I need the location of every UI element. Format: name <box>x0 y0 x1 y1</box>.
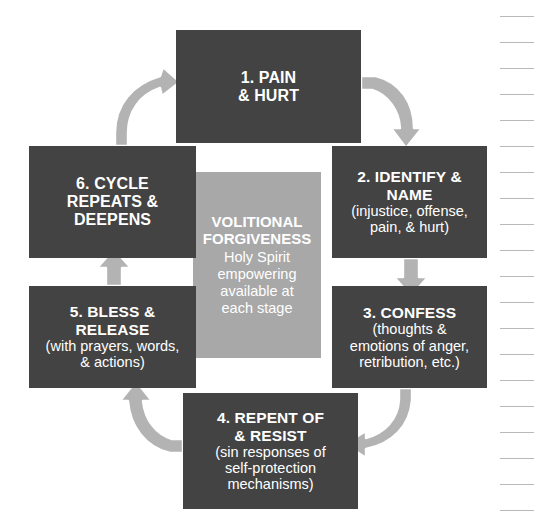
stage-3-title: 3. CONFESS <box>363 304 456 321</box>
arrow-1-to-2 <box>361 76 422 148</box>
rule-line <box>500 432 534 433</box>
rule-line <box>500 198 534 199</box>
stage-4-subtext: (sin responses of self-protection mechan… <box>215 444 325 493</box>
center-panel: VOLITIONAL FORGIVENESS Holy Spirit empow… <box>193 172 321 358</box>
stage-6-title: 6. CYCLE REPEATS & DEEPENS <box>67 175 158 229</box>
arrow-4-to-5 <box>120 381 183 453</box>
stage-box-4-repent-and-resist[interactable]: 4. REPENT OF & RESIST (sin responses of … <box>183 393 358 509</box>
rule-line <box>500 510 534 511</box>
diagram-canvas: VOLITIONAL FORGIVENESS Holy Spirit empow… <box>0 0 535 527</box>
rule-line <box>500 406 534 407</box>
rule-line <box>500 276 534 277</box>
stage-1-title: 1. PAIN & HURT <box>238 69 299 105</box>
rule-line <box>500 68 534 69</box>
rule-line <box>500 380 534 381</box>
ruled-margin-lines <box>498 0 535 527</box>
stage-box-5-bless-and-release[interactable]: 5. BLESS & RELEASE (with prayers, words,… <box>29 286 196 388</box>
stage-2-title: 2. IDENTIFY & NAME <box>357 168 461 203</box>
rule-line <box>500 250 534 251</box>
rule-line <box>500 42 534 43</box>
stage-box-3-confess[interactable]: 3. CONFESS (thoughts & emotions of anger… <box>332 286 487 388</box>
rule-line <box>500 172 534 173</box>
rule-line <box>500 224 534 225</box>
stage-box-1-pain-and-hurt[interactable]: 1. PAIN & HURT <box>176 30 361 143</box>
rule-line <box>500 16 534 17</box>
rule-line <box>500 120 534 121</box>
center-panel-heading: VOLITIONAL FORGIVENESS <box>203 213 311 248</box>
stage-4-title: 4. REPENT OF & RESIST <box>217 409 324 444</box>
rule-line <box>500 146 534 147</box>
center-panel-subtext: Holy Spirit empowering available at each… <box>218 249 297 317</box>
rule-line <box>500 302 534 303</box>
stage-5-subtext: (with prayers, words, & actions) <box>46 338 180 370</box>
arrow-6-to-1 <box>115 67 180 146</box>
rule-line <box>500 328 534 329</box>
rule-line <box>500 354 534 355</box>
stage-box-2-identify-and-name[interactable]: 2. IDENTIFY & NAME (injustice, offense, … <box>332 146 487 258</box>
stage-box-6-cycle-repeats-and-deepens[interactable]: 6. CYCLE REPEATS & DEEPENS <box>29 146 196 258</box>
stage-5-title: 5. BLESS & RELEASE <box>70 303 155 338</box>
stage-2-subtext: (injustice, offense, pain, & hurt) <box>351 203 468 235</box>
rule-line <box>500 458 534 459</box>
rule-line <box>500 484 534 485</box>
stage-3-subtext: (thoughts & emotions of anger, retributi… <box>350 321 469 370</box>
rule-line <box>500 94 534 95</box>
